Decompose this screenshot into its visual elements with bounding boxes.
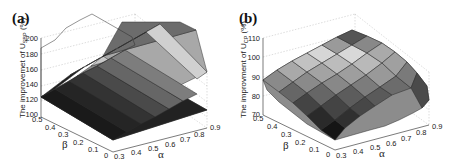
- svg-text:0.4: 0.4: [45, 123, 55, 132]
- z-axis-label-b: The improvment of UCP (%): [239, 21, 249, 118]
- svg-text:0.4: 0.4: [131, 148, 141, 157]
- beta-axis-label: β: [62, 138, 68, 150]
- svg-text:80: 80: [252, 92, 260, 101]
- svg-text:0.6: 0.6: [165, 140, 175, 149]
- panel-a: (a): [0, 0, 228, 167]
- surface-plot-b: 110 100 90 80 70 0.5 0.4 0.3 0.2 0.1 0 β…: [227, 0, 455, 167]
- svg-text:100: 100: [247, 53, 260, 62]
- svg-text:0.3: 0.3: [281, 130, 291, 139]
- surface-plot-a: 200 180 160 140 120 100 0.5 0.4 0.3 0.2 …: [0, 0, 228, 167]
- svg-text:90: 90: [252, 73, 260, 82]
- svg-text:0.4: 0.4: [267, 122, 277, 131]
- svg-text:0.7: 0.7: [180, 135, 190, 144]
- svg-text:160: 160: [25, 65, 38, 74]
- svg-text:0: 0: [104, 151, 108, 160]
- svg-text:0.9: 0.9: [210, 123, 220, 132]
- svg-text:0.5: 0.5: [253, 114, 263, 123]
- svg-text:0.3: 0.3: [336, 151, 346, 160]
- svg-text:0.1: 0.1: [309, 145, 319, 154]
- beta-axis-label: β: [283, 139, 289, 151]
- z-ticks: 200 180 160 140 120 100: [25, 34, 38, 119]
- svg-text:140: 140: [25, 80, 38, 89]
- svg-text:180: 180: [25, 50, 38, 59]
- svg-text:0.8: 0.8: [416, 128, 426, 137]
- svg-text:0.5: 0.5: [32, 115, 42, 124]
- svg-text:120: 120: [25, 95, 38, 104]
- svg-text:0.9: 0.9: [432, 122, 442, 131]
- svg-text:0.2: 0.2: [73, 138, 83, 147]
- alpha-axis-label: α: [158, 148, 164, 160]
- svg-text:0.3: 0.3: [114, 152, 124, 161]
- svg-text:0.8: 0.8: [194, 130, 204, 139]
- svg-text:0: 0: [326, 150, 330, 159]
- svg-text:0.5: 0.5: [148, 144, 158, 153]
- panel-b: (b): [227, 0, 455, 167]
- svg-text:0.2: 0.2: [295, 138, 305, 147]
- z-axis-label-a: The improvemet of USBP (%): [18, 17, 28, 118]
- svg-text:110: 110: [248, 34, 260, 43]
- svg-text:0.7: 0.7: [401, 134, 411, 143]
- svg-text:0.1: 0.1: [88, 145, 98, 154]
- svg-text:0.4: 0.4: [353, 147, 363, 156]
- z-ticks: 110 100 90 80 70: [247, 34, 260, 119]
- alpha-axis-label: α: [379, 147, 385, 159]
- svg-text:0.6: 0.6: [386, 139, 396, 148]
